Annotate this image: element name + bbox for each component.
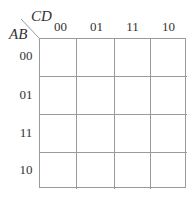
column-label-01: 01 [78,20,115,34]
row-label-01: 01 [14,88,38,102]
cell-ab00-cd11 [115,39,151,77]
column-label-00: 00 [42,20,79,34]
cell-ab00-cd10 [151,39,187,77]
cell-ab10-cd10 [151,153,187,189]
kmap-grid [39,38,186,188]
cell-ab10-cd11 [115,153,151,189]
cell-ab00-cd01 [77,39,115,77]
cell-ab11-cd01 [77,115,115,153]
column-label-11: 11 [114,20,151,34]
cell-ab00-cd00 [40,39,77,77]
column-label-10: 10 [150,20,187,34]
cell-ab01-cd10 [151,77,187,115]
row-variables-label: AB [9,27,27,42]
cell-ab01-cd01 [77,77,115,115]
cell-ab11-cd11 [115,115,151,153]
row-label-11: 11 [14,126,38,140]
row-label-10: 10 [14,163,38,177]
cell-ab11-cd00 [40,115,77,153]
karnaugh-map: CD AB 00 01 11 10 00 01 11 10 [0,0,195,199]
cell-ab11-cd10 [151,115,187,153]
cell-ab01-cd00 [40,77,77,115]
cell-ab10-cd00 [40,153,77,189]
cell-ab10-cd01 [77,153,115,189]
cell-ab01-cd11 [115,77,151,115]
row-label-00: 00 [14,49,38,63]
